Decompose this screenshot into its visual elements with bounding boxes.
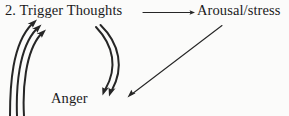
arrow-arousal-to-anger [128,26,223,98]
arrow-layer [0,0,289,116]
cycle-diagram-figure: 2. Trigger Thoughts Arousal/stress Anger [0,0,289,116]
arrow-trigger-to-arousal [143,10,195,14]
